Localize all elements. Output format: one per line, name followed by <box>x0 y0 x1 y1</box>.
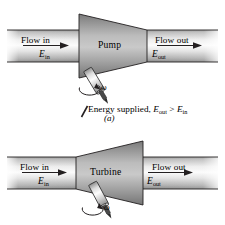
pump-inlet-energy-subscript: in <box>45 53 50 60</box>
pump-outlet-energy-label: Eout <box>152 50 166 59</box>
pump-caption-relation: > <box>167 104 177 114</box>
pump-caption-lhs-subscript: out <box>159 108 167 115</box>
panel-pump: Flow in Ein Pump Flow out Eout ω Energy … <box>0 0 225 125</box>
turbine-inlet-energy-symbol: E <box>38 176 44 186</box>
pump-device-label: Pump <box>98 40 121 50</box>
pump-inlet-energy-symbol: E <box>39 49 45 59</box>
turbine-outlet-energy-subscript: out <box>153 180 161 187</box>
turbine-outlet-energy-label: Eout <box>147 177 161 186</box>
turbine-inlet-flow-label: Flow in <box>20 163 49 172</box>
turbine-omega-label: ω <box>104 204 110 212</box>
pump-outlet-flow-label: Flow out <box>155 36 189 45</box>
pump-outlet-energy-symbol: E <box>152 49 158 59</box>
pump-panel-label: (a) <box>104 114 115 123</box>
pump-caption-rhs-subscript: in <box>183 108 188 115</box>
turbine-device-label: Turbine <box>90 167 121 177</box>
pump-omega-label: ω <box>101 84 107 92</box>
turbine-outlet-flow-label: Flow out <box>152 163 186 172</box>
pump-outlet-energy-subscript: out <box>158 53 166 60</box>
pump-caption-prefix: Energy supplied, <box>88 104 153 114</box>
panel-turbine: Flow in Ein Turbine Flow out Eout ω <box>0 128 225 225</box>
pump-inlet-flow-label: Flow in <box>21 36 50 45</box>
turbine-inlet-energy-label: Ein <box>38 177 49 186</box>
pump-caption: Energy supplied, Eout > Ein <box>88 105 188 114</box>
pump-caption-leader <box>82 106 88 117</box>
pump-caption-rhs-symbol: E <box>177 104 183 114</box>
turbine-inlet-energy-subscript: in <box>44 180 49 187</box>
turbine-outlet-energy-symbol: E <box>147 176 153 186</box>
figure-canvas: Flow in Ein Pump Flow out Eout ω Energy … <box>0 0 225 225</box>
pump-inlet-energy-label: Ein <box>39 50 50 59</box>
